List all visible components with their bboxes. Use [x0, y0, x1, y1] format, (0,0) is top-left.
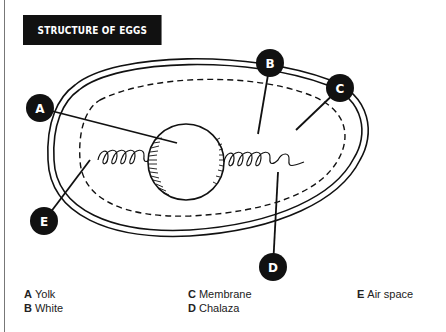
- legend-letter: D: [188, 302, 196, 314]
- svg-text:A: A: [35, 102, 45, 116]
- legend-letter: A: [24, 288, 32, 300]
- svg-text:B: B: [265, 57, 274, 71]
- legend-label: White: [35, 302, 63, 314]
- callout-b: B: [256, 49, 284, 77]
- callout-a: A: [26, 94, 54, 122]
- legend-label: Chalaza: [199, 302, 239, 314]
- egg-structure-diagram: A B C E D: [0, 0, 446, 332]
- svg-text:D: D: [268, 261, 278, 275]
- callout-d: D: [259, 253, 287, 281]
- callout-e: E: [30, 207, 58, 235]
- callout-c: C: [326, 74, 354, 102]
- legend-label: Membrane: [199, 288, 252, 300]
- legend-item-yolk: AYolk: [24, 287, 55, 301]
- chalaza-right: [224, 152, 304, 166]
- legend-item-chalaza: DChalaza: [188, 301, 239, 315]
- svg-text:C: C: [336, 82, 345, 96]
- legend-item-air-space: EAir space: [357, 287, 413, 301]
- legend-item-membrane: CMembrane: [188, 287, 252, 301]
- legend-item-white: BWhite: [24, 301, 63, 315]
- svg-text:E: E: [40, 215, 48, 229]
- yolk: [148, 124, 224, 200]
- chalaza-left: [98, 150, 152, 164]
- legend-letter: C: [188, 288, 196, 300]
- legend-letter: B: [24, 302, 32, 314]
- legend-label: Yolk: [35, 288, 55, 300]
- legend-letter: E: [357, 288, 364, 300]
- legend-label: Air space: [367, 288, 413, 300]
- leader-line-a: [40, 108, 177, 143]
